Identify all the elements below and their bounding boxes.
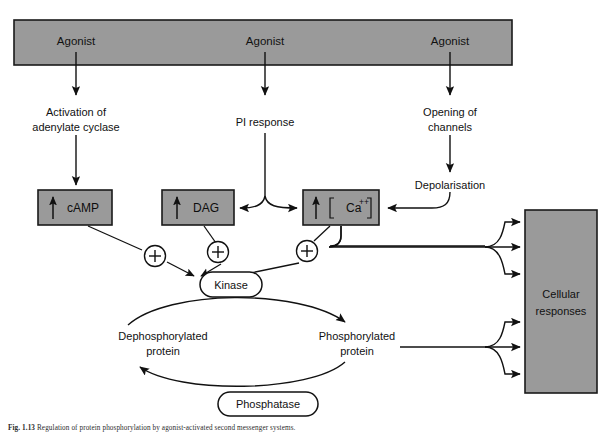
dephosphorylated-protein-line2: protein xyxy=(146,345,180,357)
calcium-charge-superscript: ++ xyxy=(359,197,369,207)
phosphoprotein-to-responses-lines xyxy=(400,322,520,374)
agonist-label-2: Agonist xyxy=(246,35,285,47)
signalling-pathway-diagram: Agonist Agonist Agonist Activation of ad… xyxy=(0,0,612,436)
opening-of-channels-line1: Opening of xyxy=(423,106,478,118)
activation-adenylate-cyclase-line1: Activation of xyxy=(46,106,107,118)
camp-box-label: cAMP xyxy=(67,201,99,215)
cellular-responses-box: Cellular responses xyxy=(525,210,597,393)
phosphatase-label: Phosphatase xyxy=(236,398,300,410)
dephosphorylated-protein-line1: Dephosphorylated xyxy=(118,330,207,342)
figure-caption-label: Fig. 1.13 xyxy=(8,424,35,432)
cellular-responses-line1: Cellular xyxy=(542,288,580,300)
plus-calcium xyxy=(297,241,318,262)
agonist-banner: Agonist Agonist Agonist xyxy=(14,20,512,65)
figure-page: Agonist Agonist Agonist Activation of ad… xyxy=(0,0,612,436)
calcium-to-responses-lines xyxy=(329,222,520,274)
plus-dag xyxy=(208,242,229,263)
figure-caption: Fig. 1.13 Regulation of protein phosphor… xyxy=(8,424,295,432)
agonist-label-3: Agonist xyxy=(431,35,470,47)
opening-of-channels-line2: channels xyxy=(428,121,473,133)
cellular-responses-line2: responses xyxy=(536,305,587,317)
plus-camp xyxy=(145,246,166,267)
agonist-label-1: Agonist xyxy=(57,35,96,47)
figure-caption-body: Regulation of protein phosphorylation by… xyxy=(37,424,296,432)
dag-box-label: DAG xyxy=(193,201,219,215)
kinase-label: Kinase xyxy=(214,279,248,291)
calcium-box: Ca ++ xyxy=(303,190,379,225)
phosphatase-node: Phosphatase xyxy=(218,392,318,416)
phosphorylated-protein-line1: Phosphorylated xyxy=(319,330,395,342)
camp-box: cAMP xyxy=(38,190,112,225)
depolarisation-label: Depolarisation xyxy=(415,179,485,191)
pi-pathway-arrows xyxy=(240,52,297,208)
dag-box: DAG xyxy=(162,190,234,225)
kinase-node: Kinase xyxy=(200,272,262,297)
phosphorylated-protein-line2: protein xyxy=(340,345,374,357)
pi-response-label: PI response xyxy=(236,116,295,128)
activation-adenylate-cyclase-line2: adenylate cyclase xyxy=(32,121,119,133)
